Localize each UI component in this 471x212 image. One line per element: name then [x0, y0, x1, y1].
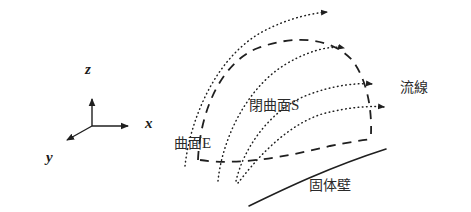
x-axis-label: x [145, 116, 153, 131]
coordinate-axes [67, 99, 128, 140]
closed-surface-symbol: S [291, 97, 299, 113]
surface-e-label-text: 曲面 [174, 135, 202, 151]
surface-e-label: 曲面E [174, 136, 211, 151]
flow-diagram-figure: z x y 流線 閉曲面S 曲面E 固体壁 [0, 0, 471, 212]
surface-e-symbol: E [202, 135, 211, 151]
closed-surface-label-text: 閉曲面 [249, 97, 291, 113]
solid-wall-label: 固体壁 [309, 178, 351, 192]
streamline-4 [238, 107, 384, 183]
z-axis-label: z [85, 62, 91, 77]
closed-surface-label: 閉曲面S [249, 98, 299, 113]
diagram-canvas [0, 0, 471, 212]
streamline-label: 流線 [400, 80, 428, 94]
surface-e-outline [200, 139, 372, 162]
y-axis-label: y [46, 150, 53, 165]
y-axis-line [67, 126, 92, 140]
